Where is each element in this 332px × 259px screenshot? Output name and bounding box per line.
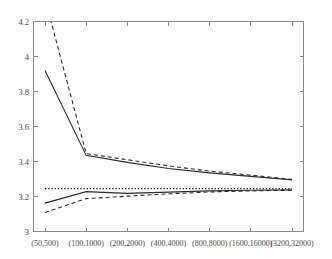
y-tick-label: 3.4 <box>18 157 29 167</box>
y-tick-label: 4 <box>25 52 30 62</box>
x-tick-label: (3200,32000) <box>270 239 314 248</box>
axis-tickmarks <box>34 22 304 232</box>
x-tick-label: (400,4000) <box>151 239 187 248</box>
y-tick-label: 4.2 <box>18 17 29 27</box>
y-tick-label: 3 <box>25 227 29 237</box>
x-tick-label: (50,500) <box>31 239 59 248</box>
y-tick-label: 3.8 <box>18 87 29 97</box>
x-tick-label: (200,2000) <box>110 239 146 248</box>
y-tick-label: 3.2 <box>18 192 29 202</box>
line-chart-svg: 33.23.43.63.844.2 (50,500)(100,1000)(200… <box>0 0 332 259</box>
y-tick-label: 3.6 <box>18 122 29 132</box>
series-lower-dashed <box>45 190 292 212</box>
series-upper-dashed <box>45 0 292 179</box>
series-upper-solid <box>45 71 292 180</box>
x-tick-label: (800,8000) <box>192 239 228 248</box>
plot-frame <box>34 22 304 232</box>
chart-container: 33.23.43.63.844.2 (50,500)(100,1000)(200… <box>0 0 332 259</box>
x-tick-label: (1600,16000) <box>229 239 273 248</box>
x-tick-label: (100,1000) <box>69 239 105 248</box>
series-lower-solid <box>45 190 292 203</box>
x-axis-tick-labels: (50,500)(100,1000)(200,2000)(400,4000)(8… <box>31 239 314 248</box>
y-axis-tick-labels: 33.23.43.63.844.2 <box>18 17 29 237</box>
series-layer <box>45 0 292 213</box>
